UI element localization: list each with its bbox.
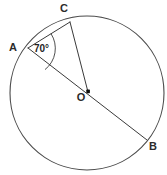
circle-geometry-figure: A C B O 70° (0, 0, 167, 175)
center-point-marker (86, 90, 90, 94)
segment-radius-OC (70, 22, 88, 92)
point-label-A: A (9, 41, 17, 53)
segment-diameter-AB (28, 48, 147, 140)
point-label-C: C (60, 2, 68, 14)
angle-measure-label: 70° (34, 43, 49, 54)
point-label-B: B (149, 140, 157, 152)
center-label-O: O (77, 91, 86, 103)
geometry-diagram: A C B O 70° (0, 0, 167, 175)
